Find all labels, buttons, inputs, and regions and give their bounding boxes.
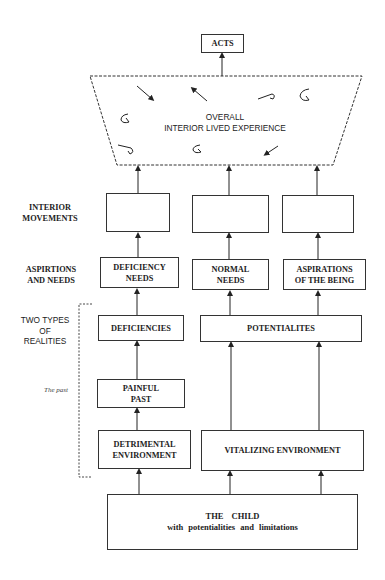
potentialites-box: POTENTIALITES: [200, 315, 362, 342]
overall-line1: OVERALL: [206, 112, 244, 122]
row-label-line: ASPIRTIONS: [26, 265, 76, 274]
row-label-line: AND NEEDS: [27, 276, 75, 285]
box-line: DEFICIENCY: [113, 263, 166, 272]
row-label-interior-movements: INTERIOR MOVEMENTS: [14, 202, 86, 224]
row-label-line: INTERIOR: [29, 203, 71, 212]
child-title: THE CHILD: [167, 511, 298, 522]
row-label-line: TWO TYPES: [21, 315, 70, 325]
detrimental-environment-box: DETRIMENTAL ENVIRONMENT: [98, 430, 191, 469]
curl-back-icon: [258, 94, 274, 99]
curl-back-icon: [118, 145, 133, 154]
row-label-line: MOVEMENTS: [22, 214, 77, 223]
interior-movement-box-normal: [192, 195, 269, 233]
box-line: VITALIZING ENVIRONMENT: [224, 445, 340, 456]
the-child-box: THE CHILD with potentialities and limita…: [107, 494, 358, 550]
box-line: DEFICIENCIES: [111, 323, 171, 334]
deficiencies-box: DEFICIENCIES: [98, 315, 184, 341]
box-line: NORMAL: [212, 265, 250, 274]
deficiency-needs-box: DEFICIENCY NEEDS: [100, 257, 179, 288]
box-line: ASPIRATIONS: [296, 265, 352, 274]
overall-experience-label: OVERALL INTERIOR LIVED EXPERIENCE: [140, 112, 310, 133]
child-subtitle: with potentialities and limitations: [167, 522, 298, 533]
arrow-down-right-icon: [137, 86, 152, 99]
spiral-icon: [300, 89, 309, 101]
row-label-aspirations-needs: ASPIRTIONS AND NEEDS: [16, 264, 86, 286]
box-line: DETRIMENTAL: [113, 440, 175, 449]
row-label-line: OF: [39, 326, 51, 336]
the-past-label: The past: [44, 386, 68, 394]
spiral-icon: [121, 114, 129, 123]
box-line: OF THE BEING: [295, 276, 354, 285]
past-bracket: [79, 304, 92, 477]
arrow-down-left-icon: [266, 146, 278, 154]
interior-movement-box-aspiration: [282, 195, 354, 233]
row-label-two-types-realities: TWO TYPES OF REALITIES: [14, 315, 76, 347]
box-line: PAINFUL: [123, 384, 159, 393]
box-line: PAST: [131, 395, 152, 404]
aspirations-of-being-box: ASPIRATIONS OF THE BEING: [283, 259, 366, 290]
overall-line2: INTERIOR LIVED EXPERIENCE: [164, 123, 286, 133]
box-line: NEEDS: [126, 274, 154, 283]
spiral-icon: [193, 145, 201, 153]
arrow-up-left-icon: [193, 89, 207, 101]
row-label-line: REALITIES: [24, 336, 66, 346]
painful-past-box: PAINFUL PAST: [97, 379, 185, 408]
vitalizing-environment-box: VITALIZING ENVIRONMENT: [201, 430, 364, 471]
normal-needs-box: NORMAL NEEDS: [192, 259, 269, 290]
interior-movement-box-deficiency: [106, 193, 170, 232]
box-line: POTENTIALITES: [247, 323, 315, 334]
diagram-canvas: [0, 0, 385, 580]
acts-box: ACTS: [201, 34, 244, 53]
box-line: ENVIRONMENT: [112, 451, 176, 460]
acts-label: ACTS: [211, 38, 233, 49]
box-line: NEEDS: [217, 276, 245, 285]
